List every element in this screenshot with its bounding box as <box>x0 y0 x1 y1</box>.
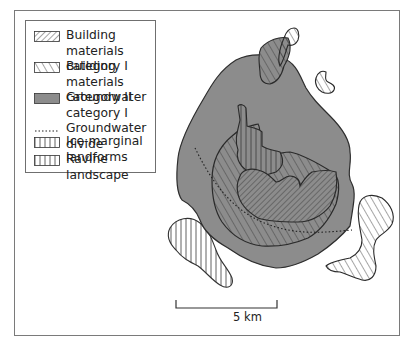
scale-bar-label: 5 km <box>233 310 262 324</box>
building-materials-2-area-east <box>315 71 334 93</box>
legend-label: Groundwater category I <box>66 90 158 121</box>
solid-grey-swatch-icon <box>34 93 60 104</box>
vertical-hatch-swatch-icon <box>34 137 60 148</box>
dense-hatch-swatch-icon <box>34 31 60 42</box>
legend-item-groundwater-1: Groundwater category I <box>34 90 158 121</box>
scale-bar <box>176 300 277 308</box>
legend-item-ice-marginal: Ice-marginal landforms <box>34 134 158 165</box>
legend: Building materials category I Building m… <box>25 20 156 173</box>
legend-label: Ice-marginal landforms <box>66 134 158 165</box>
building-materials-1-area <box>237 169 337 222</box>
sparse-hatch-swatch-icon <box>34 62 60 73</box>
